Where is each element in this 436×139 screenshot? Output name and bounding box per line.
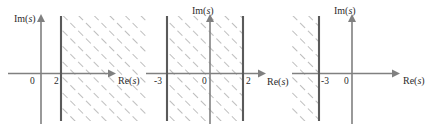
tick-label-origin: 0 [344,76,349,86]
tick-label-boundary: -3 [321,76,329,86]
roc-figure: Im(s) Re(s) 0 2 [0,0,436,139]
im-axis-label: Im(s) [334,5,356,17]
re-axis-arrowhead [392,70,400,78]
im-axis-label: Im(s) [192,5,214,17]
im-axis-label: Im(s) [14,13,36,25]
panel-roc-left-half-plane: Im(s) Re(s) -3 0 [292,0,436,139]
panel-3-canvas: Im(s) Re(s) -3 0 [292,0,436,139]
panel-1-canvas: Im(s) Re(s) 0 2 [0,0,146,139]
panel-2-canvas: Im(s) Re(s) -3 0 2 [146,0,292,139]
tick-label-boundary: 2 [54,76,59,86]
roc-shaded-region [167,16,243,121]
re-axis-label: Re(s) [403,75,425,87]
re-axis-arrowhead [258,70,266,78]
re-axis-label: Re(s) [267,76,289,88]
tick-label-origin: 0 [30,76,35,86]
panel-roc-vertical-strip: Im(s) Re(s) -3 0 2 [146,0,292,139]
roc-shaded-region [61,16,146,121]
panel-roc-right-half-plane: Im(s) Re(s) 0 2 [0,0,146,139]
im-axis-arrowhead [37,14,45,22]
tick-label-origin: 0 [202,76,207,86]
roc-shaded-region [292,16,319,121]
tick-label-right-boundary: 2 [246,76,251,86]
tick-label-left-boundary: -3 [154,76,162,86]
re-axis-label: Re(s) [118,75,140,87]
